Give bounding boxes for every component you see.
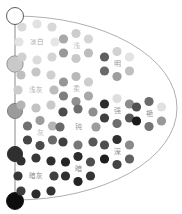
tone-dot-pale-6[interactable] [14,37,23,46]
tone-dot-dark-grayish-3[interactable] [46,186,55,195]
tone-map-page: 淡白浅明浅灰柔强艳灰钝深暗灰暗 [0,0,182,214]
tone-dot-dull-7[interactable] [58,107,67,116]
tone-dot-soft-4[interactable] [59,91,68,100]
tone-dot-dark-grayish-7[interactable] [16,156,25,165]
tone-clusters-layer: 淡白浅明浅灰柔强艳灰钝深暗灰暗 [13,19,166,198]
tone-dot-deep-2[interactable] [125,154,134,163]
tone-dot-dark-grayish-5[interactable] [16,186,25,195]
tone-dot-strong-5[interactable] [100,99,109,108]
tone-dot-pale-3[interactable] [47,52,56,61]
tone-dot-dull-4[interactable] [73,140,82,149]
tone-label-light-grayish: 浅灰 [29,85,43,94]
tone-dot-grayish-2[interactable] [48,135,57,144]
tone-cluster-dark-grayish: 暗灰 [13,153,58,198]
tone-dot-deep-4[interactable] [100,154,109,163]
tone-dot-grayish-5[interactable] [23,121,32,130]
tone-dot-dark-grayish-6[interactable] [13,171,22,180]
tone-cluster-bright: 明 [100,47,134,81]
tone-cluster-pale: 淡白 [14,19,59,64]
tone-dot-dull-3[interactable] [88,137,97,146]
tone-label-deep: 深 [114,147,121,156]
tone-dot-light-grayish-6[interactable] [13,85,22,94]
tone-dot-pale-7[interactable] [17,22,26,31]
tone-dot-dull-6[interactable] [55,122,64,131]
tone-dot-pale-1[interactable] [47,22,56,31]
tone-dot-soft-0[interactable] [71,72,80,81]
tone-dot-light-grayish-5[interactable] [16,100,25,109]
tone-dot-deep-5[interactable] [100,140,109,149]
tone-dot-pale-2[interactable] [50,37,59,46]
tone-dot-grayish-3[interactable] [35,141,44,150]
tone-dot-soft-5[interactable] [59,77,68,86]
tone-map-figure: 淡白浅明浅灰柔强艳灰钝深暗灰暗 [0,0,182,214]
tone-dot-vivid-3[interactable] [144,122,153,131]
tone-cluster-deep: 深 [100,135,134,169]
tone-dot-deep-3[interactable] [112,160,121,169]
tone-dot-dark-3[interactable] [73,177,82,186]
tone-dot-pale-0[interactable] [32,19,41,28]
tone-dot-bright-0[interactable] [112,47,121,56]
tone-label-strong: 强 [114,107,121,115]
tone-dot-light-grayish-2[interactable] [49,85,58,94]
tone-dot-dark-grayish-0[interactable] [31,153,40,162]
tone-cluster-strong: 强 [100,94,134,128]
tone-dot-dull-0[interactable] [73,104,82,113]
tone-dot-light-grayish-1[interactable] [46,70,55,79]
gray-axis-circle-white[interactable] [7,8,24,25]
tone-dot-strong-3[interactable] [112,119,121,128]
tone-dot-vivid-2[interactable] [157,116,166,125]
tone-dot-light-1[interactable] [84,34,93,43]
tone-dot-light-4[interactable] [59,48,68,57]
tone-label-bright: 明 [114,60,121,68]
tone-dot-light-grayish-7[interactable] [16,70,25,79]
tone-cluster-light-grayish: 浅灰 [13,67,58,112]
tone-dot-pale-5[interactable] [17,52,26,61]
tone-dot-dark-grayish-2[interactable] [49,171,58,180]
tone-dot-light-0[interactable] [71,29,80,38]
tone-label-light: 浅 [73,41,80,50]
tone-dot-pale-4[interactable] [32,55,41,64]
tone-dot-grayish-0[interactable] [35,116,44,125]
tone-dot-light-grayish-3[interactable] [46,100,55,109]
tone-dot-dark-0[interactable] [73,152,82,161]
tone-dot-light-5[interactable] [59,34,68,43]
tone-cluster-vivid: 艳 [132,97,166,131]
tone-label-dull: 钝 [75,122,82,131]
tone-dot-strong-0[interactable] [112,94,121,103]
tone-dot-deep-1[interactable] [125,140,134,149]
tone-cluster-dull: 钝 [55,104,100,149]
tone-dot-vivid-0[interactable] [144,97,153,106]
tone-label-grayish: 灰 [37,128,44,137]
tone-dot-grayish-4[interactable] [23,135,32,144]
tone-dot-soft-2[interactable] [84,91,93,100]
tone-dot-dark-1[interactable] [86,157,95,166]
tone-dot-dark-grayish-4[interactable] [31,189,40,198]
tone-dot-dull-2[interactable] [91,122,100,131]
tone-dot-deep-0[interactable] [112,135,121,144]
tone-dot-dark-4[interactable] [61,171,70,180]
tone-dot-bright-2[interactable] [125,66,134,75]
tone-label-vivid: 艳 [146,109,153,118]
tone-dot-dark-grayish-1[interactable] [46,156,55,165]
tone-dot-light-grayish-0[interactable] [31,67,40,76]
tone-dot-soft-1[interactable] [84,77,93,86]
tone-dot-light-grayish-4[interactable] [31,103,40,112]
tone-dot-dull-5[interactable] [58,137,67,146]
tone-dot-dark-5[interactable] [61,157,70,166]
tone-dot-light-3[interactable] [71,54,80,63]
tone-dot-dark-2[interactable] [86,171,95,180]
tone-cluster-soft: 柔 [59,72,93,106]
tone-dot-light-2[interactable] [84,48,93,57]
tone-dot-bright-1[interactable] [125,52,134,61]
tone-dot-bright-3[interactable] [112,72,121,81]
tone-dot-strong-4[interactable] [100,113,109,122]
tone-dot-bright-5[interactable] [100,52,109,61]
tone-label-dark: 暗 [75,164,82,173]
tone-dot-vivid-4[interactable] [132,116,141,125]
tone-label-pale: 淡白 [30,37,44,46]
tone-dot-bright-4[interactable] [100,66,109,75]
tone-dot-dull-1[interactable] [88,107,97,116]
tone-dot-vivid-5[interactable] [132,102,141,111]
tone-cluster-light: 浅 [59,29,93,63]
tone-dot-vivid-1[interactable] [157,102,166,111]
